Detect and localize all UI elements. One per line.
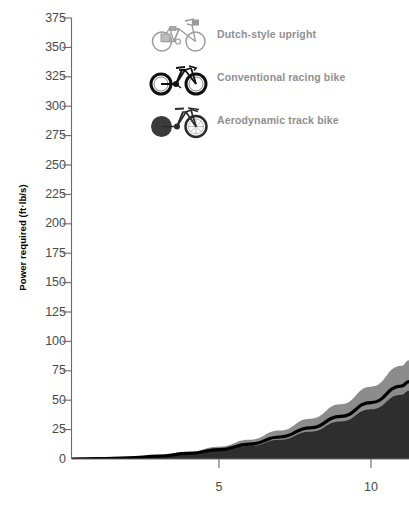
legend-item-conventional-racing-bike[interactable]: Conventional racing bike [148, 55, 398, 98]
legend-item-dutch-style-upright[interactable]: Dutch-style upright [148, 12, 398, 55]
x-tick-label: 5 [199, 481, 239, 494]
dutch-upright-bicycle-icon [148, 14, 208, 54]
legend-label: Aerodynamic track bike [217, 114, 339, 126]
power-required-chart: Power required (ft·lb/s) 025507510012515… [0, 0, 409, 515]
racing-bicycle-icon [148, 57, 208, 97]
x-tick-label: 10 [351, 481, 391, 494]
legend-label: Conventional racing bike [217, 71, 345, 83]
aero-track-bicycle-icon [148, 100, 208, 140]
legend-item-aerodynamic-track-bike[interactable]: Aerodynamic track bike [148, 98, 398, 141]
chart-legend: Dutch-style upright [148, 12, 398, 141]
legend-label: Dutch-style upright [217, 28, 316, 40]
